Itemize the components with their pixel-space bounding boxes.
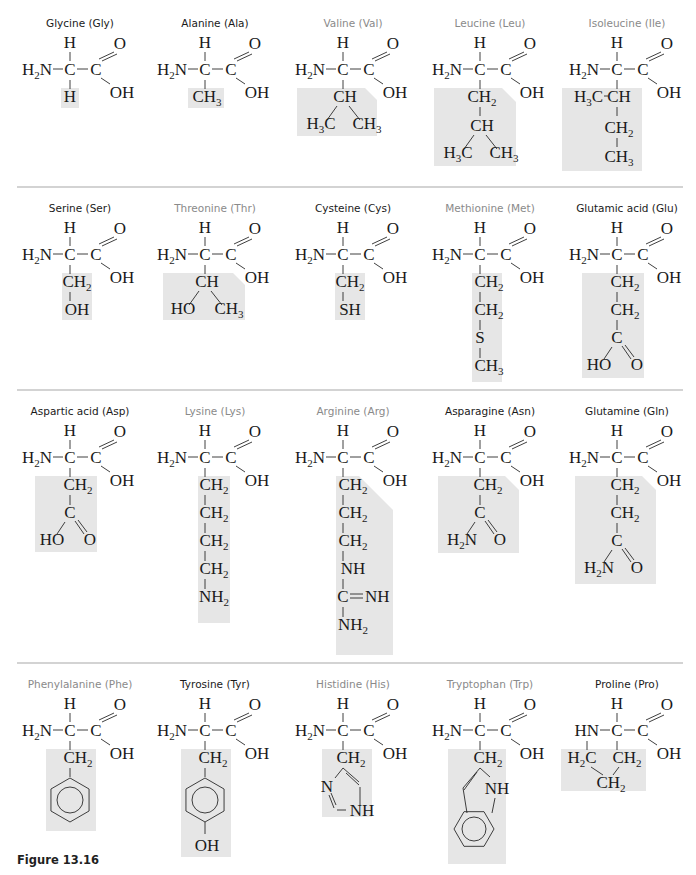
hydroxyl-group: OH <box>657 83 682 102</box>
bond-line <box>237 715 252 722</box>
amino-group: H2​N <box>432 448 462 469</box>
amino-acid-title: Arginine (Arg) <box>316 405 389 417</box>
bond-line <box>648 263 657 269</box>
hydroxyl-group: OH <box>110 471 135 490</box>
amino-group: H2​N <box>22 245 52 266</box>
atom-label: C <box>474 503 485 522</box>
hydroxyl-group: OH <box>657 744 682 763</box>
amino-acid-title: Glycine (Gly) <box>46 17 114 29</box>
bond-line <box>511 78 520 84</box>
bond-line <box>648 739 657 745</box>
bond-line <box>375 442 390 449</box>
atom-label: S <box>475 328 484 347</box>
hydroxyl-group: OH <box>245 83 270 102</box>
figure-caption: Figure 13.16 <box>17 853 99 867</box>
carbonyl-oxygen: O <box>387 34 399 53</box>
carbonyl-oxygen: O <box>661 695 673 714</box>
atom-label: SH <box>339 300 361 319</box>
bond-line <box>237 442 252 449</box>
atom-label: C <box>611 328 622 347</box>
hydroxyl-group: OH <box>245 471 270 490</box>
bond-line <box>509 52 524 59</box>
hydroxyl-group: OH <box>383 471 408 490</box>
amino-acid-title: Tryptophan (Trp) <box>446 678 533 690</box>
bond-line <box>237 239 252 246</box>
amino-acid-title: Alanine (Ala) <box>181 17 248 29</box>
alpha-hydrogen: H <box>611 421 623 440</box>
bond-line <box>374 739 383 745</box>
alpha-carbon: C <box>474 245 485 264</box>
bond-line <box>99 52 114 59</box>
amino-acid-title: Glutamic acid (Glu) <box>576 202 678 214</box>
carbonyl-oxygen: O <box>387 219 399 238</box>
bond-line <box>102 54 117 61</box>
hydroxyl-group: OH <box>520 83 545 102</box>
atom-label: C <box>64 503 75 522</box>
amino-acid-title: Cysteine (Cys) <box>315 202 391 214</box>
alpha-carbon: C <box>199 60 210 79</box>
bond-line <box>234 237 249 244</box>
alpha-hydrogen: H <box>199 218 211 237</box>
alpha-hydrogen: H <box>199 33 211 52</box>
alpha-carbon: C <box>199 448 210 467</box>
hydroxyl-group: OH <box>245 268 270 287</box>
carboxyl-carbon: C <box>90 448 101 467</box>
atom-label: O <box>631 355 643 374</box>
carbonyl-oxygen: O <box>524 219 536 238</box>
amino-acid-title: Isoleucine (Ile) <box>589 17 666 29</box>
alpha-carbon: C <box>611 245 622 264</box>
bond-line <box>375 239 390 246</box>
carbonyl-oxygen: O <box>524 422 536 441</box>
amino-acid-asn: Asparagine (Asn)HH2​NCCOOHCH2​CH2​NO <box>432 405 544 553</box>
bond-line <box>512 442 527 449</box>
bond-line <box>99 440 114 447</box>
alpha-carbon: C <box>337 245 348 264</box>
amino-acid-title: Tyrosine (Tyr) <box>179 678 250 690</box>
bond-line <box>101 466 110 472</box>
carboxyl-carbon: C <box>637 448 648 467</box>
amino-acid-title: Aspartic acid (Asp) <box>31 405 130 417</box>
amino-group: H2​N <box>22 448 52 469</box>
bond-line <box>649 54 664 61</box>
bond-line <box>511 466 520 472</box>
bond-line <box>101 78 110 84</box>
amino-acid-pro: Proline (Pro)HHNCCOOHH2​CCH2​CH2​ <box>561 678 681 794</box>
carbonyl-oxygen: O <box>114 219 126 238</box>
alpha-carbon: C <box>337 721 348 740</box>
bond-line <box>372 713 387 720</box>
carbonyl-oxygen: O <box>249 219 261 238</box>
amino-group: H2​N <box>157 60 187 81</box>
bond-line <box>374 78 383 84</box>
bond-line <box>646 440 661 447</box>
atom-label: C <box>337 587 348 606</box>
amino-acid-met: Methionine (Met)HH2​NCCOOHCH2​CH2​SCH3​ <box>432 202 544 382</box>
alpha-carbon: C <box>611 721 622 740</box>
bond-line <box>102 715 117 722</box>
carboxyl-carbon: C <box>363 60 374 79</box>
carboxyl-carbon: C <box>363 245 374 264</box>
alpha-carbon: C <box>611 60 622 79</box>
amino-acid-asp: Aspartic acid (Asp)HH2​NCCOOHCH2​CHOO <box>22 405 134 552</box>
hydroxyl-group: OH <box>520 268 545 287</box>
atom-label: CH <box>607 87 631 106</box>
bond-line <box>372 52 387 59</box>
bond-line <box>646 52 661 59</box>
amino-acid-gln: Glutamine (Gln)HH2​NCCOOHCH2​CH2​CH2​NO <box>569 405 681 584</box>
hydroxyl-group: OH <box>383 268 408 287</box>
bond-line <box>234 713 249 720</box>
alpha-hydrogen: H <box>337 421 349 440</box>
bond-line <box>374 263 383 269</box>
bond-line <box>237 54 252 61</box>
carbonyl-oxygen: O <box>524 695 536 714</box>
bond-line <box>102 442 117 449</box>
amino-acid-title: Lysine (Lys) <box>185 405 246 417</box>
amino-group: H2​N <box>569 448 599 469</box>
atom-label: N <box>321 777 333 796</box>
bond-line <box>509 713 524 720</box>
amino-acid-tyr: Tyrosine (Tyr)HH2​NCCOOHCH2​OH <box>157 678 269 857</box>
atom-label: O <box>631 558 643 577</box>
hydroxyl-group: OH <box>245 744 270 763</box>
alpha-hydrogen: H <box>611 218 623 237</box>
amino-group: H2​N <box>157 721 187 742</box>
alpha-hydrogen: H <box>64 694 76 713</box>
